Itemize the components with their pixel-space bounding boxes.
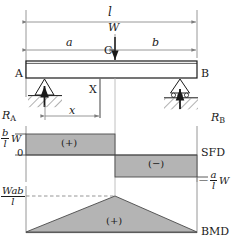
label-section-x: X [89,84,97,95]
label-node-b: B [201,68,209,79]
label-segment-b: b [152,37,159,48]
label-span-l: l [108,6,112,18]
label-segment-a: a [66,37,73,48]
label-sfd-negative-marker: (−) [148,159,164,169]
label-bmd-caption: BMD [201,226,229,237]
label-sfd-negative-value: — a l W [199,170,229,191]
bmd-triangle [26,196,197,232]
sfd-neg-sign: — [199,176,208,185]
label-load-w: W [108,22,119,33]
reaction-rb-subscript: B [219,116,225,125]
figure-canvas: l W a b C A B X x RA RB b l W 0 (+) (−) … [0,0,238,240]
bmd-peak-denominator: l [1,196,25,207]
sfd-neg-numerator: a [210,170,218,180]
label-reaction-ra: RA [2,110,16,123]
reaction-ra-subscript: A [10,114,16,123]
label-load-point-c: C [104,45,112,56]
sfd-pos-factor: W [11,134,21,144]
bmd-peak-numerator: Wab [1,186,25,196]
beam-diagram-svg [0,0,238,240]
sfd-neg-factor: W [219,176,229,186]
label-sfd-caption: SFD [201,147,225,158]
label-reaction-rb: RB [211,112,225,125]
sfd-pos-numerator: b [1,128,9,138]
sfd-neg-denominator: l [210,180,218,191]
label-node-a: A [15,68,23,79]
label-bmd-positive-marker: (+) [106,216,122,226]
label-sfd-zero: 0 [17,148,23,158]
beam-body [26,61,197,78]
support-pin-left [28,79,62,107]
label-distance-x: x [69,105,75,116]
label-bmd-peak-value: Wab l [1,186,25,207]
sfd-plot [15,126,208,182]
label-sfd-positive-marker: (+) [61,138,77,148]
sfd-pos-denominator: l [1,138,9,149]
support-roller-right [164,79,198,109]
